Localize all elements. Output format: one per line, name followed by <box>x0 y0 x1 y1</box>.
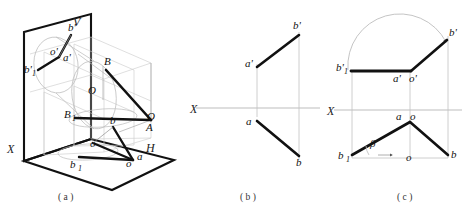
label-b-a: b <box>110 114 116 126</box>
caption-c: ( c ) <box>397 192 412 203</box>
caption-b: ( b ) <box>240 192 256 203</box>
label-o-prime-a: o' <box>50 45 59 57</box>
diagram-b-group: X a' b' a b ( b ) <box>189 19 320 203</box>
label-o-bottom-c: o <box>406 151 412 163</box>
label-o-a: o <box>90 137 96 149</box>
label-a-prime-a: a' <box>63 51 72 63</box>
technical-drawing-svg: V X H b' o' a' b' 1 B O O A B 1 b o a o … <box>0 0 468 212</box>
v-plane-outline <box>24 14 91 161</box>
label-x-axis-c: X <box>326 104 335 118</box>
rotation-arc-c <box>348 14 446 70</box>
label-a-a: a <box>137 150 143 162</box>
figure-root: V X H b' o' a' b' 1 B O O A B 1 b o a o … <box>0 0 468 212</box>
label-b1-prime-sub-c: 1 <box>344 67 348 76</box>
diagram-c-group: X b' 1 a' o' b' a o b 1 o b β ( c ) <box>326 14 462 203</box>
label-x-axis-a: X <box>6 142 15 156</box>
label-x-axis-b: X <box>189 102 198 116</box>
segment-a-b-b <box>257 121 299 156</box>
segment-B-O <box>106 70 151 120</box>
label-b1-sub-a: 1 <box>78 164 82 173</box>
caption-a: ( a ) <box>58 192 73 203</box>
label-b1-a: b <box>70 158 76 170</box>
segment-oprime-b1prime <box>38 57 59 70</box>
label-o2-a: o <box>126 157 132 169</box>
label-b1-prime-sub-a: 1 <box>32 69 36 78</box>
label-b-prime-c: b' <box>449 26 458 38</box>
label-a-b: a <box>246 115 252 127</box>
label-o-c: o <box>410 110 416 122</box>
label-b1-c: b <box>338 149 344 161</box>
label-b1-sub-c: 1 <box>346 155 350 164</box>
segment-aprime-bprime-b <box>257 35 299 67</box>
label-A-a: A <box>145 121 153 133</box>
label-beta-angle-c: β <box>369 137 376 149</box>
label-a-c: a <box>396 110 402 122</box>
segment-o-b-c <box>410 122 448 155</box>
segment-b1-o-c <box>352 122 410 155</box>
diagram-a-group: V X H b' o' a' b' 1 B O O A B 1 b o a o … <box>6 14 174 203</box>
segment-oprime-bprime-c <box>411 40 447 71</box>
label-o-prime-c: o' <box>409 72 418 84</box>
projection-connectors-c <box>352 36 448 158</box>
label-B1-sub-a: 1 <box>72 114 76 123</box>
label-O-a: O <box>88 84 96 96</box>
label-b-b: b <box>296 156 302 168</box>
label-a-prime-c: a' <box>393 72 402 84</box>
space-line-segments <box>75 70 151 120</box>
label-a-prime-b: a' <box>245 57 254 69</box>
label-b-prime-b: b' <box>293 19 302 31</box>
label-B1-a: B <box>64 108 71 120</box>
label-b-c: b <box>451 148 457 160</box>
label-h-plane: H <box>145 141 156 155</box>
label-b-prime-a: b' <box>68 21 77 33</box>
label-B-a: B <box>104 55 111 67</box>
